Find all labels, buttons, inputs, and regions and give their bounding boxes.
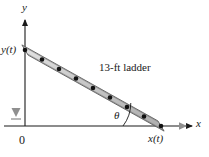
ladder-diagram: y y(t) 0 x(t) x 13-ft ladder θ	[0, 0, 209, 157]
wall-motion-arrow	[11, 68, 21, 119]
ladder-rungs	[23, 48, 164, 129]
rung-dot	[91, 86, 96, 91]
floor-distance-label: x(t)	[148, 133, 163, 144]
diagram-canvas	[0, 0, 209, 157]
rung-dot	[108, 95, 113, 100]
rung-dot	[57, 67, 62, 72]
rung-dot	[142, 114, 147, 119]
rung-dot	[74, 76, 79, 81]
origin-label: 0	[19, 134, 25, 146]
rung-dot	[125, 105, 130, 110]
y-axis-label: y	[22, 2, 27, 13]
wall-height-label: y(t)	[1, 44, 16, 55]
ladder-length-label: 13-ft ladder	[99, 62, 151, 73]
rung-dot	[23, 48, 28, 53]
x-axis-label: x	[196, 118, 201, 129]
floor-motion-arrow	[164, 122, 187, 130]
rung-dot	[159, 124, 164, 129]
angle-label: θ	[114, 110, 119, 121]
rung-dot	[40, 57, 45, 62]
